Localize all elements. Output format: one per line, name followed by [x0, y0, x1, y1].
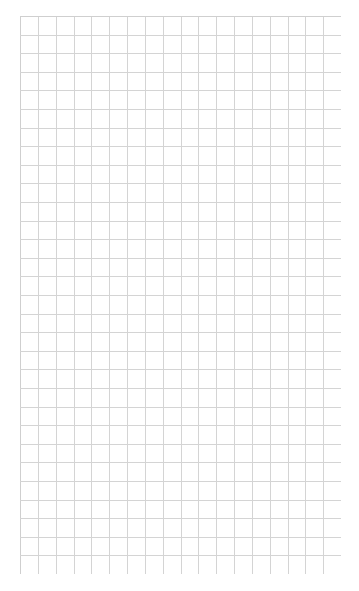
grid-lines [20, 16, 341, 574]
graph-paper-page [0, 0, 359, 591]
grid-area [20, 16, 341, 574]
